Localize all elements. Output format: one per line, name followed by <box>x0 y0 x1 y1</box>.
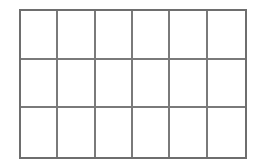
grid-cell <box>208 60 245 109</box>
grid-cell <box>208 108 245 157</box>
grid-cell <box>133 60 170 109</box>
grid-cell <box>58 108 95 157</box>
grid-cell <box>21 11 58 60</box>
grid-cell <box>133 108 170 157</box>
grid-cell <box>58 60 95 109</box>
empty-grid <box>19 9 247 159</box>
grid-cell <box>21 108 58 157</box>
grid-cell <box>170 108 207 157</box>
grid-cell <box>96 60 133 109</box>
grid-cell <box>96 11 133 60</box>
grid-cell <box>21 60 58 109</box>
grid-cell <box>208 11 245 60</box>
grid-cell <box>133 11 170 60</box>
grid-cell <box>96 108 133 157</box>
grid-cell <box>170 11 207 60</box>
grid-cell <box>58 11 95 60</box>
grid-cell <box>170 60 207 109</box>
